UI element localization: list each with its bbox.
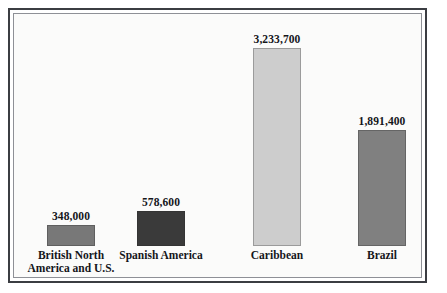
bar-value-label: 1,891,400 — [359, 116, 406, 128]
category-label-line-1: Brazil — [367, 249, 397, 261]
category-label-line-2: America and U.S. — [1, 262, 141, 275]
bar-rect — [47, 225, 95, 246]
bar-rect — [137, 211, 185, 246]
bar-category-label: Brazil — [312, 249, 447, 262]
category-label-line-1: Caribbean — [251, 249, 303, 261]
plot-frame: 348,000British NorthAmerica and U.S.578,… — [13, 13, 422, 278]
category-label-line-1: Spanish America — [119, 249, 202, 261]
bar-value-label: 578,600 — [142, 197, 180, 209]
bar-rect — [358, 130, 406, 246]
bar-chart-plot-area: 348,000British NorthAmerica and U.S.578,… — [14, 14, 421, 277]
bar-rect — [253, 48, 301, 246]
figure-frame: 348,000British NorthAmerica and U.S.578,… — [8, 8, 427, 283]
bar-group: 1,891,400Brazil — [312, 116, 447, 247]
bar-value-label: 348,000 — [52, 211, 90, 223]
bar-value-label: 3,233,700 — [254, 34, 301, 46]
